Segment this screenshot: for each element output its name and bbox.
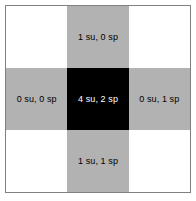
- grid-cell-top-right: [129, 6, 190, 68]
- grid-cell-top-left: [6, 6, 67, 68]
- diagram-root: 1 su, 0 sp 0 su, 0 sp 4 su, 2 sp 0 su, 1…: [0, 0, 196, 201]
- cell-label: 1 su, 1 sp: [78, 156, 118, 167]
- cell-label: 0 su, 1 sp: [139, 94, 179, 105]
- grid-cell-bottom-center: 1 su, 1 sp: [67, 130, 128, 192]
- grid-cell-middle-left: 0 su, 0 sp: [6, 68, 67, 130]
- grid-cell-top-center: 1 su, 0 sp: [67, 6, 128, 68]
- grid-cell-bottom-right: [129, 130, 190, 192]
- grid-3x3: 1 su, 0 sp 0 su, 0 sp 4 su, 2 sp 0 su, 1…: [5, 5, 191, 193]
- grid-cell-middle-right: 0 su, 1 sp: [129, 68, 190, 130]
- grid-cell-bottom-left: [6, 130, 67, 192]
- cell-label: 1 su, 0 sp: [78, 32, 118, 43]
- cell-label: 0 su, 0 sp: [17, 94, 57, 105]
- cell-label: 4 su, 2 sp: [78, 94, 118, 105]
- grid-cell-center: 4 su, 2 sp: [67, 68, 128, 130]
